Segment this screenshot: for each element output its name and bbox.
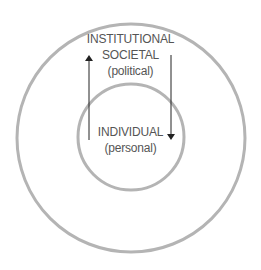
outer-label-political: (political) bbox=[0, 64, 261, 78]
outer-label-institutional: INSTITUTIONAL bbox=[0, 32, 261, 46]
inner-label-personal: (personal) bbox=[0, 141, 261, 155]
concentric-circles-diagram: INSTITUTIONAL SOCIETAL (political) INDIV… bbox=[0, 0, 261, 270]
outer-label-societal: SOCIETAL bbox=[0, 48, 261, 62]
inner-label-individual: INDIVIDUAL bbox=[0, 125, 261, 139]
